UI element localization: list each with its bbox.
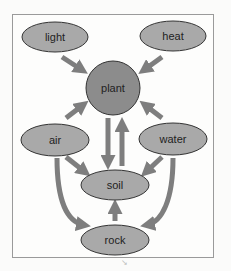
label-light: light <box>45 31 65 43</box>
page-mark: ↘ <box>121 258 128 267</box>
label-air: air <box>49 134 62 146</box>
label-soil: soil <box>107 179 124 191</box>
label-plant: plant <box>101 82 125 94</box>
nutrient-cycle-diagram: light heat plant air water soil rock <box>0 0 231 271</box>
label-rock: rock <box>105 234 126 246</box>
label-water: water <box>159 133 187 145</box>
label-heat: heat <box>162 30 183 42</box>
